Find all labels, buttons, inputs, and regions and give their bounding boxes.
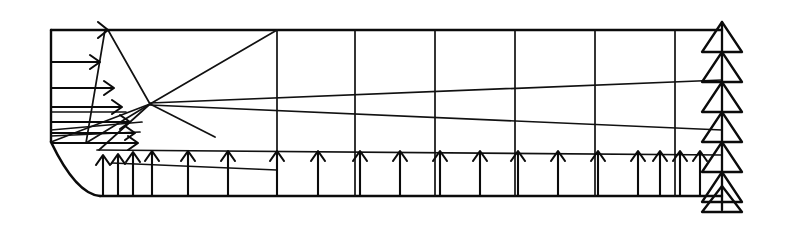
bottom-arrow [221,151,235,196]
bottom-arrow [551,151,565,196]
figure-root [0,0,796,225]
transition-line-2 [108,30,150,104]
bottom-arrow [653,151,667,196]
inflow-arrow [51,22,108,38]
transition-mesh-group [51,30,277,196]
transition-line-13 [150,104,215,137]
bottom-arrow [511,151,525,196]
bottom-arrow [111,154,125,196]
bottom-arrow [591,151,605,196]
inflow-arrow [51,81,114,95]
bottom-arrow [126,152,140,196]
inflow-arrow [51,55,100,69]
bottom-arrow [145,151,159,196]
bottom-arrow [311,151,325,196]
contraction-wall-curve [51,142,100,196]
bottom-arrow [631,151,645,196]
inflow-arrows-group [51,22,138,150]
bottom-arrow [393,151,407,196]
transition-line-3 [150,30,277,104]
transition-line-8 [112,163,277,170]
bottom-symmetry-arrows-group [96,151,707,196]
grid-hline-2 [150,105,722,130]
outflow-triangles-group [702,22,742,212]
bottom-arrow [270,151,284,196]
structured-grid-group [97,30,722,196]
bottom-arrow [181,151,195,196]
bottom-arrow [473,151,487,196]
bottom-arrow [96,155,110,196]
mesh-diagram-svg [0,0,796,225]
bottom-arrow [693,151,707,196]
grid-hline-1 [150,80,722,103]
